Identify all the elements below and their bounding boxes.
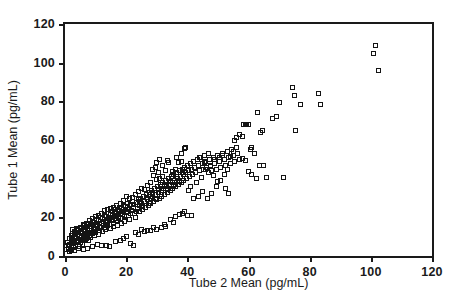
data-point [91, 229, 96, 234]
data-point [277, 100, 282, 105]
y-axis-title: Tube 1 Mean (pg/mL) [4, 22, 22, 258]
data-point [98, 225, 103, 230]
data-point [171, 183, 176, 188]
data-point [209, 191, 214, 196]
data-point [144, 195, 149, 200]
data-point [290, 85, 295, 90]
y-tick [59, 179, 65, 181]
data-point [254, 176, 259, 181]
y-tick-label: 120 [34, 17, 55, 31]
data-point [225, 167, 230, 172]
data-point [113, 239, 118, 244]
data-point [180, 170, 185, 175]
data-point [228, 154, 233, 159]
data-point [293, 128, 298, 133]
data-point [157, 157, 162, 162]
data-point [171, 220, 176, 225]
data-point [257, 163, 262, 168]
y-tick [59, 101, 65, 103]
data-point [65, 240, 70, 245]
x-axis-title: Tube 2 Mean (pg/mL) [63, 276, 434, 290]
data-point [177, 179, 182, 184]
data-point [373, 43, 378, 48]
data-point [165, 187, 170, 192]
data-point [199, 175, 204, 180]
data-point [237, 132, 242, 137]
data-point [160, 163, 165, 168]
data-point [116, 215, 121, 220]
y-tick-label: 80 [41, 94, 55, 108]
data-point [205, 196, 210, 201]
data-point [246, 122, 251, 127]
data-point [281, 175, 286, 180]
data-point [156, 170, 161, 175]
data-point [292, 93, 297, 98]
data-point [196, 194, 201, 199]
data-point [90, 244, 95, 249]
data-point [153, 196, 158, 201]
data-point [214, 184, 219, 189]
x-tick [371, 256, 373, 262]
data-point [376, 68, 381, 73]
data-point [252, 151, 257, 156]
data-point [140, 204, 145, 209]
data-point [159, 192, 164, 197]
y-tick-label: 60 [41, 133, 55, 147]
data-point [99, 243, 104, 248]
x-tick [249, 256, 251, 262]
y-tick-label: 20 [41, 210, 55, 224]
x-tick [432, 256, 434, 262]
data-point [104, 222, 109, 227]
y-tick-label: 40 [41, 172, 55, 186]
data-point [170, 169, 175, 174]
data-point [211, 173, 216, 178]
data-point [208, 164, 213, 169]
data-point [212, 157, 217, 162]
data-point [249, 145, 254, 150]
y-tick-label: 0 [48, 249, 55, 263]
data-point [67, 249, 72, 254]
data-point [104, 243, 109, 248]
data-point [147, 201, 152, 206]
data-point [215, 179, 220, 184]
data-point [202, 160, 207, 165]
data-point [128, 211, 133, 216]
data-point [194, 180, 199, 185]
data-point [226, 191, 231, 196]
x-tick [126, 256, 128, 262]
data-point [189, 213, 194, 218]
data-point [222, 172, 227, 177]
x-axis-title-text: Tube 2 Mean (pg/mL) [189, 276, 309, 290]
data-point [274, 114, 279, 119]
data-point [79, 234, 84, 239]
data-point [243, 158, 248, 163]
y-axis-title-text: Tube 1 Mean (pg/mL) [6, 80, 20, 200]
data-point [125, 205, 130, 210]
data-point [163, 168, 168, 173]
y-tick [59, 63, 65, 65]
data-point [95, 242, 100, 247]
data-point [179, 151, 184, 156]
data-point [133, 215, 138, 220]
data-point [122, 213, 127, 218]
data-point [85, 231, 90, 236]
data-point [153, 165, 158, 170]
data-point [133, 230, 138, 235]
data-point [73, 236, 78, 241]
data-point [134, 209, 139, 214]
y-tick [59, 140, 65, 142]
data-point [217, 155, 222, 160]
data-points-layer [65, 24, 432, 256]
y-tick [59, 24, 65, 26]
data-point [81, 247, 86, 252]
data-point [261, 163, 266, 168]
data-point [186, 188, 191, 193]
data-point [165, 158, 170, 163]
plot-area: 020406080100120 020406080100120 [63, 22, 434, 258]
data-point [200, 189, 205, 194]
data-point [318, 102, 323, 107]
data-point [264, 175, 269, 180]
data-point [316, 91, 321, 96]
data-point [142, 229, 147, 234]
data-point [118, 238, 123, 243]
